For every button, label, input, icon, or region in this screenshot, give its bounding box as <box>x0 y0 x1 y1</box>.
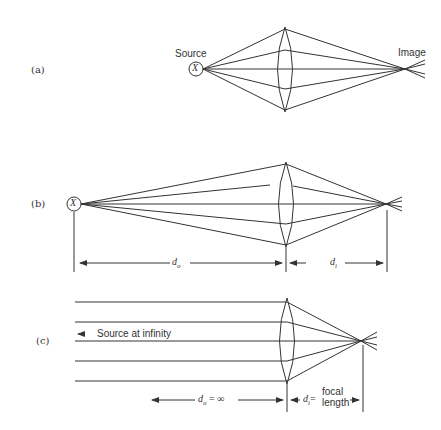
source-symbol-b: X <box>70 197 76 208</box>
image-distance-label-b: di <box>330 256 337 270</box>
panel-b <box>67 162 402 272</box>
lens-diagram <box>0 0 441 430</box>
focal-length-label: focallength <box>322 386 349 408</box>
panel-label-a: (a) <box>31 64 45 75</box>
source-at-infinity-label: Source at infinity <box>97 328 171 339</box>
panel-label-b: (b) <box>31 198 45 209</box>
source-symbol-a: X <box>192 62 198 73</box>
panel-a <box>189 27 425 112</box>
image-label: Image <box>398 47 426 58</box>
source-label: Source <box>175 48 207 59</box>
image-distance-label-c: di= <box>303 393 316 407</box>
panel-label-c: (c) <box>36 335 49 346</box>
object-distance-label-c: do = ∞ <box>198 393 224 407</box>
object-distance-label-b: do <box>172 256 181 270</box>
